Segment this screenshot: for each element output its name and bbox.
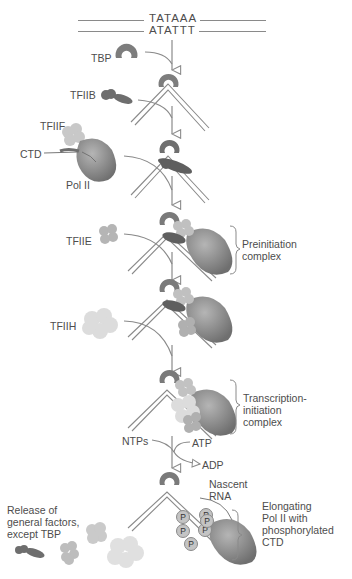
tfiie-free — [99, 224, 118, 244]
label-tfiif: TFIIF — [40, 120, 65, 132]
label-tfiih: TFIIH — [50, 320, 76, 332]
preinitiation-bracket — [230, 226, 240, 274]
tbp-incoming-arrow — [145, 52, 172, 64]
label-adp: ADP — [202, 459, 224, 471]
label-tbp: TBP — [91, 52, 111, 64]
label-tfiie: TFIIE — [66, 235, 92, 247]
label-pol2: Pol II — [66, 179, 90, 191]
atp-arrow — [174, 442, 190, 452]
label-transcription-initiation-complex: Transcription- initiation complex — [243, 392, 307, 428]
label-atp: ATP — [192, 437, 212, 449]
phosphate-group: P — [176, 510, 190, 524]
tfiih-free — [82, 308, 118, 339]
released-tfiih — [107, 536, 144, 568]
complex-step-2 — [131, 74, 209, 131]
complex-step-3 — [131, 140, 209, 203]
released-tfiie — [60, 541, 79, 565]
phosphate-group: P — [176, 524, 190, 538]
diagram-graphics — [0, 0, 352, 579]
tfiih-incoming-arrow — [124, 321, 172, 356]
phosphate-group: P — [184, 537, 198, 551]
label-release-of-general-factors: Release of general factors, except TBP — [7, 504, 79, 540]
tbp-free — [116, 44, 138, 58]
label-elongating-pol2: Elongating Pol II with phosphorylated CT… — [262, 500, 334, 548]
label-nascent-rna: Nascent RNA — [209, 478, 248, 502]
released-tfiib — [15, 545, 46, 560]
label-ctd: CTD — [20, 148, 42, 160]
complex-step-6 — [128, 370, 236, 439]
phosphate-group: P — [200, 514, 214, 528]
transcription-initiation-diagram: TATAAA ATATTT — [0, 0, 352, 579]
label-preinitiation-complex: Preinitiation complex — [242, 238, 297, 262]
complex-step-4 — [128, 212, 232, 281]
released-tfiif — [86, 522, 107, 544]
tfiib-free — [101, 89, 134, 106]
label-ntps: NTPs — [122, 435, 148, 447]
label-tfiib: TFIIB — [70, 89, 96, 101]
complex-step-5 — [128, 279, 232, 348]
